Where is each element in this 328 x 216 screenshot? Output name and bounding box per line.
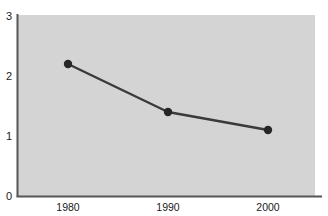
data-point-1980 xyxy=(64,60,72,68)
data-point-1990 xyxy=(164,108,172,116)
line-chart: 3 2 1 0 1980 1990 2000 xyxy=(0,0,328,216)
y-tick-label-3: 3 xyxy=(6,10,12,22)
x-tick-label-1980: 1980 xyxy=(56,201,80,213)
y-tick-label-1: 1 xyxy=(6,130,12,142)
x-tick-label-1990: 1990 xyxy=(156,201,180,213)
y-tick-label-0: 0 xyxy=(6,190,12,202)
chart-container: 3 2 1 0 1980 1990 2000 xyxy=(0,0,328,216)
x-tick-label-2000: 2000 xyxy=(256,201,280,213)
y-tick-label-2: 2 xyxy=(6,70,12,82)
plot-area-background xyxy=(18,15,315,196)
data-point-2000 xyxy=(264,126,272,134)
